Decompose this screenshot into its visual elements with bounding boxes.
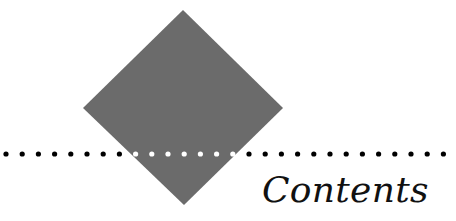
dot: [392, 151, 397, 156]
dot: [376, 151, 381, 156]
dot: [165, 151, 170, 156]
dot: [295, 151, 300, 156]
dot: [133, 151, 138, 156]
dot: [311, 151, 316, 156]
dot: [441, 151, 446, 156]
dot: [182, 151, 187, 156]
page-title: Contents: [262, 172, 429, 208]
dot: [3, 151, 8, 156]
dot: [408, 151, 413, 156]
dot: [360, 151, 365, 156]
dot: [20, 151, 25, 156]
dot: [327, 151, 332, 156]
dot: [279, 151, 284, 156]
dot: [246, 151, 251, 156]
dot: [344, 151, 349, 156]
dot: [52, 151, 57, 156]
dot: [36, 151, 41, 156]
dot: [425, 151, 430, 156]
dot: [214, 151, 219, 156]
dot: [230, 151, 235, 156]
contents-header: Contents: [0, 0, 456, 221]
diamond-shape: [83, 10, 283, 205]
dot: [149, 151, 154, 156]
dot: [117, 151, 122, 156]
dot: [263, 151, 268, 156]
dot: [84, 151, 89, 156]
dot: [68, 151, 73, 156]
dot: [101, 151, 106, 156]
dot: [198, 151, 203, 156]
